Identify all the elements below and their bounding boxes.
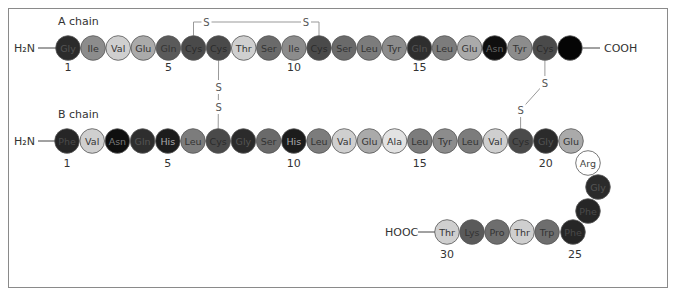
position-number: 20 <box>539 157 553 170</box>
b-chain: B chain H₂N HOOC PheValAsnGlnHisLeuCysGl… <box>14 108 610 261</box>
residue-name: Asn <box>486 43 503 54</box>
residue-name: His <box>286 136 301 147</box>
residue: Phe <box>561 220 586 245</box>
residue: Val <box>106 36 131 61</box>
position-number: 15 <box>413 157 427 170</box>
residue-name: Ile <box>288 43 299 54</box>
residue: Cys <box>307 36 332 61</box>
residue: Gln <box>407 36 432 61</box>
residue-name: Glu <box>135 43 151 54</box>
residue-name: Cys <box>185 43 202 54</box>
residue-name: Ser <box>336 43 352 54</box>
b-chain-label: B chain <box>58 108 99 121</box>
residue-name: His <box>160 136 175 147</box>
residue: Phe <box>576 199 601 224</box>
residue: Phe <box>55 129 80 154</box>
residue-name: Tyr <box>512 43 527 54</box>
residue: Cys <box>533 36 558 61</box>
a-chain-residues: GlyIleValGluGlnCysCysThrSerIleCysSerLeuT… <box>56 36 583 61</box>
residue-name: Gly <box>236 136 252 147</box>
residue-name: Thr <box>513 227 530 238</box>
position-number: 10 <box>287 157 301 170</box>
residue-name: Asn <box>109 136 126 147</box>
residue-name: Glu <box>563 136 579 147</box>
residue: Leu <box>432 36 457 61</box>
residue: Glu <box>357 129 382 154</box>
position-number: 25 <box>568 248 582 261</box>
position-number: 1 <box>64 157 71 170</box>
residue-name: Tyr <box>437 136 452 147</box>
sulfur-atom: S <box>542 78 548 89</box>
residue: Tyr <box>508 36 533 61</box>
residue-name: Glu <box>361 136 377 147</box>
residue: Cys <box>181 36 206 61</box>
residue: Arg <box>576 151 601 176</box>
a-chain-label: A chain <box>58 15 99 28</box>
residue: Glu <box>457 36 482 61</box>
residue-name: Tyr <box>386 43 401 54</box>
residue: Val <box>80 129 105 154</box>
residue-name: Cys <box>512 136 529 147</box>
residue-circle <box>558 36 583 61</box>
residue-name: Gly <box>60 43 76 54</box>
residue-name: Ile <box>87 43 98 54</box>
residue: Tyr <box>433 129 458 154</box>
residue-name: Ala <box>387 136 402 147</box>
residue-name: Leu <box>311 136 328 147</box>
position-number: 10 <box>287 61 301 74</box>
a-chain-position-numbers: 151015 <box>65 61 427 74</box>
residue: Ser <box>332 36 357 61</box>
residue-name: Val <box>85 136 99 147</box>
residue-name: Leu <box>462 136 479 147</box>
a-chain-n-terminus: H₂N <box>14 42 35 55</box>
residue: Asn <box>105 129 130 154</box>
residue: Gly <box>586 175 611 200</box>
residue-name: Trp <box>539 227 554 238</box>
residue: Cys <box>206 129 231 154</box>
residue-name: Thr <box>438 227 455 238</box>
residue: Thr <box>510 220 535 245</box>
residue-name: Gln <box>160 43 176 54</box>
residue-name: Pro <box>489 227 504 238</box>
residue-name: Leu <box>436 43 453 54</box>
residue-name: Leu <box>411 136 428 147</box>
residue: Cys <box>206 36 231 61</box>
residue-name: Lys <box>465 227 480 238</box>
residue-name: Arg <box>580 158 596 169</box>
residue-name: Gln <box>411 43 427 54</box>
residue-name: Glu <box>462 43 478 54</box>
residue: Ile <box>282 36 307 61</box>
residue: Cys <box>508 129 533 154</box>
residue: Thr <box>435 220 460 245</box>
residue-name: Ser <box>261 136 277 147</box>
residue: Leu <box>181 129 206 154</box>
b-chain-n-terminus: H₂N <box>14 135 35 148</box>
residue: Asn <box>482 36 507 61</box>
position-number: 15 <box>412 61 426 74</box>
residue-name: Ser <box>261 43 277 54</box>
residue: Ile <box>81 36 106 61</box>
sulfur-atom: S <box>203 17 209 28</box>
residue <box>558 36 583 61</box>
residue-name: Cys <box>210 136 227 147</box>
residue-name: Val <box>111 43 125 54</box>
sulfur-atom: S <box>517 105 523 116</box>
residue: Ser <box>256 129 281 154</box>
sulfur-atom: S <box>303 17 309 28</box>
a-chain: A chain H₂N COOH GlyIleValGluGlnCysCysTh… <box>14 15 637 74</box>
a-chain-c-terminus: COOH <box>604 42 637 55</box>
residue-name: Cys <box>210 43 227 54</box>
position-number: 30 <box>440 248 454 261</box>
residue: Glu <box>559 129 584 154</box>
b-chain-c-terminus: HOOC <box>385 226 419 239</box>
residue-name: Gly <box>538 136 554 147</box>
residue: His <box>156 129 181 154</box>
position-number: 5 <box>164 157 171 170</box>
residue: Leu <box>357 36 382 61</box>
residue-name: Phe <box>579 206 597 217</box>
sulfur-atom: S <box>215 102 221 113</box>
residue: Lys <box>460 220 485 245</box>
b-chain-residues: PheValAsnGlnHisLeuCysGlySerHisLeuValGluA… <box>55 129 611 245</box>
residue-name: Thr <box>235 43 252 54</box>
